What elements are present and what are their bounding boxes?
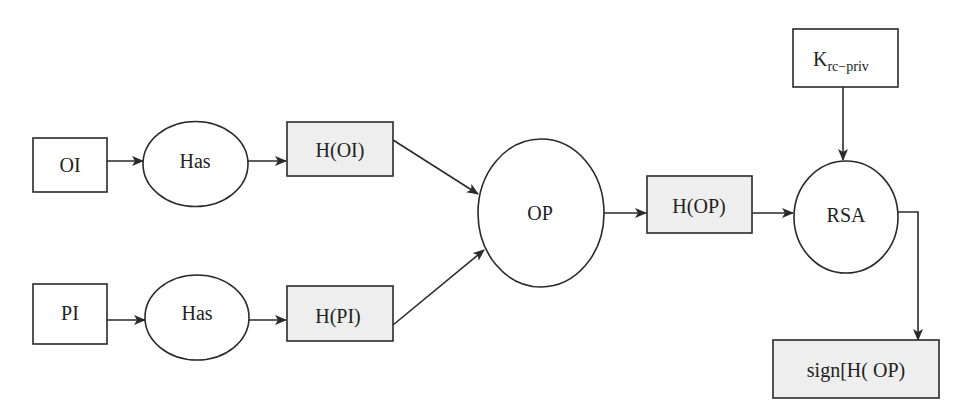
node-has-top: Has [143, 122, 248, 207]
node-h-oi: H(OI) [287, 122, 393, 176]
node-op-label: OP [527, 202, 553, 224]
node-h-pi-label: H(PI) [315, 305, 361, 328]
node-h-op: H(OP) [647, 176, 752, 233]
node-h-op-label: H(OP) [672, 195, 725, 218]
node-oi: OI [33, 138, 107, 192]
node-h-pi: H(PI) [287, 286, 393, 341]
node-h-oi-label: H(OI) [316, 139, 365, 162]
node-has-top-label: Has [179, 150, 210, 172]
key-subscript: rc−priv [827, 59, 868, 74]
node-pi-label: PI [61, 302, 79, 324]
edge-rsa-sign [898, 212, 918, 340]
key-main: K [813, 48, 828, 70]
node-has-bottom: Has [145, 275, 249, 360]
edge-hpi-op [393, 250, 484, 325]
flow-diagram: OI Has H(OI) PI Has H(PI) OP H(OP) [0, 0, 967, 420]
node-sign: sign[H( OP) [773, 340, 939, 398]
node-pi: PI [33, 284, 107, 344]
node-key: Krc−priv [793, 29, 898, 87]
node-op: OP [478, 139, 604, 287]
node-sign-label: sign[H( OP) [807, 359, 905, 382]
edge-hoi-op [393, 140, 478, 194]
node-rsa: RSA [794, 161, 898, 273]
node-has-bottom-label: Has [181, 302, 212, 324]
node-rsa-label: RSA [827, 204, 866, 226]
node-oi-label: OI [59, 154, 80, 176]
